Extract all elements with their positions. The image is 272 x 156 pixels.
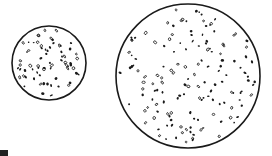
particle-dot [166, 124, 169, 127]
particle-dot [137, 70, 139, 72]
particle-dot [153, 116, 156, 119]
particle-dot [160, 81, 163, 85]
particle-dot [49, 67, 51, 70]
particle-dot [209, 89, 213, 93]
particle-dot [207, 95, 210, 97]
particle-dot [205, 25, 208, 27]
large-circle [116, 4, 260, 148]
particle-dot [193, 118, 195, 120]
particle-dot [157, 128, 160, 130]
particle-dot [156, 88, 159, 91]
small-circle-group [12, 26, 86, 100]
particle-dot [169, 118, 173, 122]
particle-dot [179, 42, 181, 44]
particle-dot [60, 50, 63, 53]
particle-dot [189, 126, 192, 129]
large-circle-group [116, 4, 260, 148]
particle-dot [28, 41, 30, 43]
particle-dot [184, 65, 188, 69]
particle-dot [61, 55, 63, 58]
particle-dot [55, 29, 58, 33]
particle-dot [70, 42, 73, 44]
particle-dot [57, 85, 60, 88]
particle-dot [202, 127, 205, 129]
particle-dot [252, 83, 255, 86]
particle-dot [210, 22, 213, 25]
particle-dot [19, 59, 22, 62]
particle-dot [144, 31, 148, 35]
particle-dot [134, 36, 137, 39]
particle-dot [36, 71, 39, 74]
particle-dot [118, 71, 122, 74]
particle-dot [17, 67, 20, 70]
particle-dot [19, 68, 22, 71]
particle-dot [211, 98, 214, 101]
particle-dot [197, 63, 199, 65]
particle-dot [75, 53, 77, 55]
particle-dot [50, 94, 54, 97]
particle-dot [176, 97, 179, 100]
particle-dot [193, 73, 195, 76]
particle-dot [229, 116, 233, 120]
particle-dot [23, 69, 26, 73]
particle-dot [230, 106, 233, 109]
particle-dot [185, 128, 188, 131]
particle-dot [175, 136, 177, 139]
particle-dot [211, 51, 213, 53]
particle-dot [155, 103, 158, 106]
particle-dot [181, 131, 184, 134]
particle-dot [46, 49, 49, 52]
particle-dot [50, 63, 54, 67]
particle-dot [186, 85, 190, 88]
particle-dot [68, 84, 70, 86]
particle-dot [175, 9, 177, 11]
particle-dot [170, 111, 173, 114]
particle-dot [167, 21, 169, 24]
particle-dot [143, 75, 147, 78]
particle-dot [153, 40, 157, 44]
particle-dot [253, 80, 256, 83]
particle-dot [156, 110, 159, 113]
particle-dot [202, 97, 205, 99]
particle-dot [134, 58, 137, 60]
particle-dot [38, 74, 41, 77]
particle-dot [169, 69, 173, 73]
particle-dot [219, 120, 223, 123]
particle-dot [37, 35, 40, 37]
particle-dot [45, 48, 47, 50]
particle-dot [44, 29, 46, 32]
particle-dot [185, 141, 187, 143]
particle-dot [31, 68, 33, 71]
particle-dot [219, 64, 223, 68]
particle-dot [40, 44, 43, 48]
particle-dot [243, 71, 247, 75]
particle-dot [141, 87, 144, 90]
particle-dot [36, 41, 39, 44]
particle-dot [218, 103, 220, 106]
particle-dot [45, 52, 48, 55]
particle-dot [191, 39, 194, 43]
particle-dot [33, 77, 35, 80]
particle-dot [239, 99, 241, 101]
particle-dot [49, 62, 52, 65]
particle-dot [168, 38, 171, 41]
particle-dot [180, 126, 183, 128]
particle-dot [162, 100, 165, 104]
particle-dot [166, 112, 169, 115]
particle-dot [22, 41, 25, 44]
particle-dot [19, 64, 21, 67]
particle-dot [192, 134, 195, 136]
particle-dot [173, 51, 176, 53]
particle-dot [213, 83, 217, 87]
particle-dot [239, 66, 242, 69]
particle-dot [200, 13, 203, 16]
particle-dot [131, 54, 133, 56]
particle-dot [206, 65, 209, 68]
particle-dot [144, 121, 147, 124]
particle-dot [151, 98, 153, 101]
particle-dot [41, 92, 45, 95]
particle-dot [200, 59, 203, 62]
particle-dot [46, 82, 49, 86]
particle-dot [241, 105, 243, 107]
particle-dot [171, 33, 174, 35]
